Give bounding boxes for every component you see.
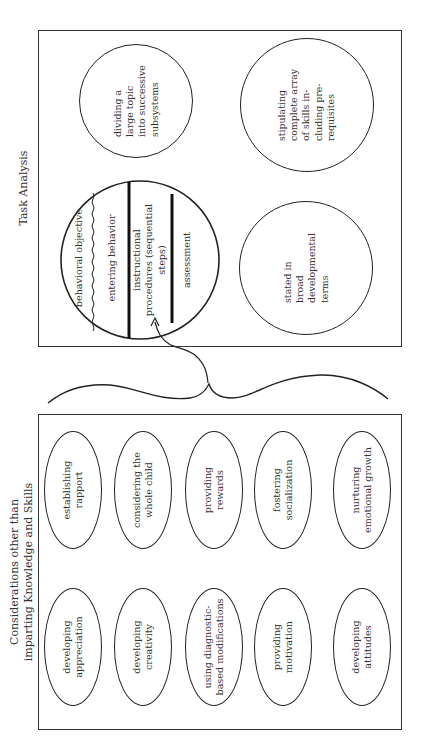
oval-label-line: developing [131, 620, 143, 673]
consideration-oval-label: providingrewards [202, 467, 227, 514]
oval-label-line: appreciation [73, 616, 85, 677]
oval-label-line: providing [271, 621, 283, 673]
consideration-oval-label: using diagnostic-based modifications [202, 598, 227, 695]
oval-label-line: creativity [143, 620, 155, 673]
oval-label-line: attitudes [362, 620, 374, 673]
consideration-oval-label: establishingrapport [61, 461, 86, 520]
oval-label-line: rapport [73, 461, 85, 520]
oval-label-line: whole child [143, 452, 155, 528]
oval-label-line: developing [350, 620, 362, 673]
consideration-oval-label: considering thewhole child [131, 452, 156, 528]
oval-label-line: socialization [283, 460, 295, 521]
considerations-title: Considerations other than imparting Know… [8, 483, 36, 661]
consideration-oval-label: developingappreciation [61, 616, 86, 677]
consideration-oval-label: developingcreativity [131, 620, 156, 673]
oval-label-line: considering the [131, 452, 143, 528]
consideration-oval-label: fosteringsocialization [271, 460, 296, 521]
considerations-title-line2: imparting Knowledge and Skills [22, 483, 36, 661]
oval-label-line: nurturing [350, 447, 362, 533]
oval-label-line: emotional growth [362, 447, 374, 533]
oval-label-line: establishing [61, 461, 73, 520]
consideration-oval-label: developingattitudes [350, 620, 375, 673]
consideration-oval-label: providingmotivation [271, 621, 296, 673]
curly-brace [48, 375, 388, 403]
oval-label-line: developing [61, 616, 73, 677]
considerations-title-line1: Considerations other than [8, 483, 22, 661]
consideration-oval-label: nurturingemotional growth [350, 447, 375, 533]
oval-label-line: based modifications [214, 598, 226, 695]
arrow-curve [155, 322, 208, 383]
oval-label-line: using diagnostic- [202, 598, 214, 695]
oval-label-line: fostering [271, 460, 283, 521]
oval-label-line: motivation [283, 621, 295, 673]
oval-label-line: rewards [214, 467, 226, 514]
oval-label-line: providing [202, 467, 214, 514]
